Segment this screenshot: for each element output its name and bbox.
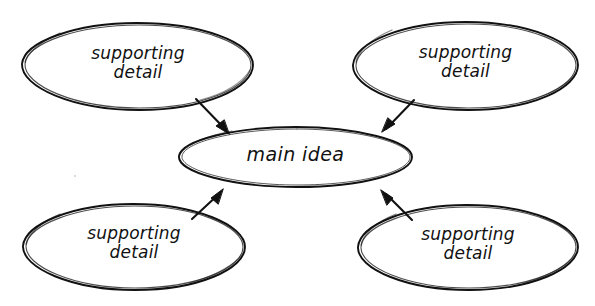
paper-speck bbox=[74, 175, 76, 177]
node-label-top-right: supporting detail bbox=[352, 43, 579, 81]
concept-map-diagram: supporting detail supporting detail main… bbox=[0, 0, 595, 306]
arrow-top-left-to-center bbox=[196, 99, 229, 134]
node-label-bottom-left: supporting detail bbox=[22, 224, 246, 262]
arrow-top-right-to-center bbox=[382, 100, 414, 132]
node-label-bottom-right: supporting detail bbox=[357, 225, 579, 263]
node-label-center: main idea bbox=[178, 144, 413, 165]
node-label-top-left: supporting detail bbox=[22, 44, 254, 82]
